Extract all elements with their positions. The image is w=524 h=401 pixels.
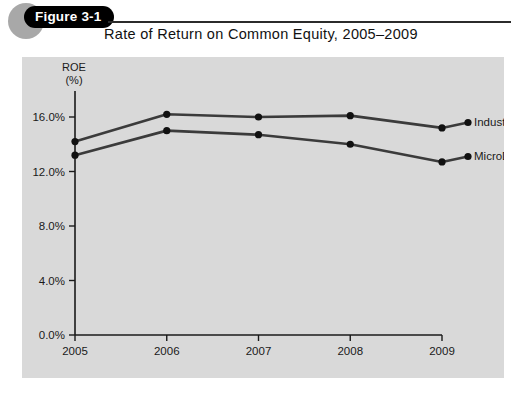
x-tick-label-2007: 2007 bbox=[246, 345, 272, 357]
data-point-microdrive-2009 bbox=[438, 158, 445, 165]
header-divider-rule bbox=[108, 21, 511, 23]
data-point-industry-2008 bbox=[347, 112, 354, 119]
data-point-microdrive-2008 bbox=[347, 141, 354, 148]
y-tick-label-4: 16.0% bbox=[32, 111, 65, 123]
legend-marker-microdrive bbox=[464, 153, 471, 160]
data-point-microdrive-2007 bbox=[255, 131, 262, 138]
x-axis-ticks: 2005 2006 2007 2008 2009 bbox=[62, 335, 455, 357]
series-layer bbox=[71, 111, 471, 166]
y-axis-label-line1: ROE bbox=[62, 61, 86, 73]
figure-title: Rate of Return on Common Equity, 2005–20… bbox=[104, 26, 418, 42]
y-tick-label-2: 8.0% bbox=[39, 220, 65, 232]
y-tick-label-0: 0.0% bbox=[39, 329, 65, 341]
data-point-industry-2009 bbox=[438, 124, 445, 131]
x-tick-label-2008: 2008 bbox=[337, 345, 363, 357]
data-point-industry-2006 bbox=[163, 111, 170, 118]
x-tick-label-2005: 2005 bbox=[62, 345, 88, 357]
y-axis-label-line2: (%) bbox=[65, 74, 82, 86]
data-point-microdrive-2006 bbox=[163, 127, 170, 134]
legend-marker-industry bbox=[464, 119, 471, 126]
line-chart-plot: ROE (%) 0.0% 4.0% 8.0% 12.0% 16.0% 2005 bbox=[22, 57, 504, 378]
y-tick-label-1: 4.0% bbox=[39, 275, 65, 287]
series-label-microdrive: MicroDrive bbox=[474, 150, 504, 162]
series-label-industry: Industry bbox=[474, 116, 504, 128]
y-tick-label-3: 12.0% bbox=[32, 166, 65, 178]
x-tick-label-2006: 2006 bbox=[154, 345, 180, 357]
data-point-microdrive-2005 bbox=[71, 152, 78, 159]
x-tick-label-2009: 2009 bbox=[429, 345, 455, 357]
data-point-industry-2005 bbox=[71, 138, 78, 145]
y-axis-ticks: 0.0% 4.0% 8.0% 12.0% 16.0% bbox=[32, 111, 75, 341]
series-leader-industry bbox=[442, 123, 468, 128]
figure-number-badge: Figure 3-1 bbox=[24, 6, 114, 28]
series-leader-microdrive bbox=[442, 157, 468, 162]
data-point-industry-2007 bbox=[255, 113, 262, 120]
figure-header: Figure 3-1 Rate of Return on Common Equi… bbox=[0, 0, 524, 57]
chart-panel: ROE (%) 0.0% 4.0% 8.0% 12.0% 16.0% 2005 bbox=[22, 57, 504, 378]
